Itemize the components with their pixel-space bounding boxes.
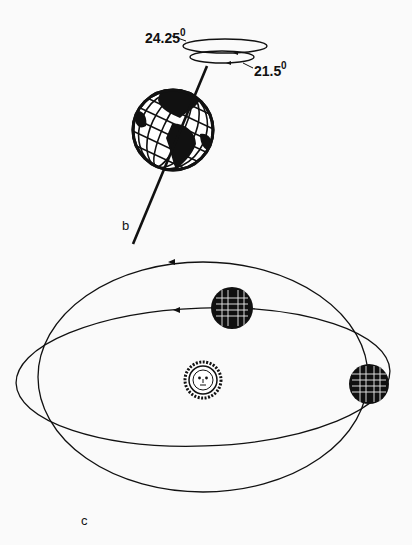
precession-rings [172, 36, 267, 68]
degree-symbol: 0 [281, 60, 287, 71]
sun-icon [185, 362, 221, 398]
earth-globe-icon [112, 80, 237, 181]
earth-globe-icon [211, 287, 253, 329]
diagram-canvas: 24.25 0 21.5 0 b [0, 0, 412, 545]
earth-globe-icon [349, 364, 389, 404]
arrow-icon [173, 307, 180, 313]
panel-label-c: c [81, 513, 88, 528]
panel-label-b: b [122, 218, 129, 233]
angle-inner-label: 21.5 [254, 63, 281, 79]
angle-outer-label: 24.25 [145, 30, 180, 46]
degree-symbol: 0 [180, 27, 186, 38]
arrow-icon [226, 61, 231, 65]
